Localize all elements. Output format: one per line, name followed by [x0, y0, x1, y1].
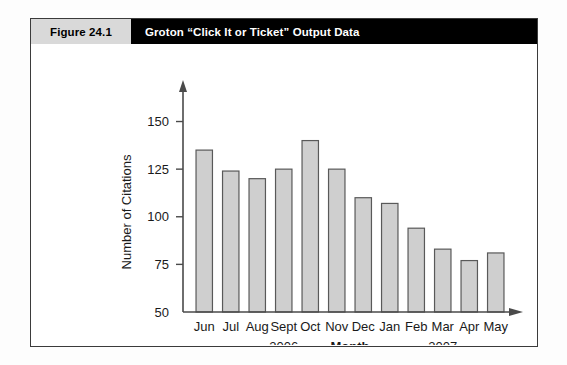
figure-container: Figure 24.1 Groton “Click It or Ticket” …	[0, 0, 567, 365]
year-label-2007: 2007	[428, 339, 457, 345]
figure-header: Figure 24.1 Groton “Click It or Ticket” …	[31, 19, 537, 44]
x-tick-label-apr: Apr	[459, 319, 480, 334]
x-axis-arrowhead	[509, 308, 523, 316]
bar-sept	[276, 169, 292, 312]
y-tick-label-125: 125	[147, 162, 169, 177]
y-tick-label-50: 50	[155, 305, 169, 320]
bar-jan	[382, 203, 398, 312]
x-tick-label-oct: Oct	[300, 319, 321, 334]
bar-jun	[196, 150, 212, 312]
y-axis-arrowhead	[179, 80, 187, 92]
x-tick-label-jun: Jun	[194, 319, 215, 334]
y-tick-label-75: 75	[155, 257, 169, 272]
y-axis-ticks: 5075100125150	[147, 114, 183, 319]
figure-title-label: Groton “Click It or Ticket” Output Data	[145, 26, 360, 38]
bar-aug	[249, 179, 265, 312]
figure-number-box: Figure 24.1	[31, 19, 131, 44]
x-tick-label-mar: Mar	[432, 319, 455, 334]
year-label-2006: 2006	[269, 339, 298, 345]
x-tick-label-jan: Jan	[379, 319, 400, 334]
x-tick-label-aug: Aug	[246, 319, 269, 334]
figure-number-label: Figure 24.1	[50, 26, 112, 38]
bar-apr	[461, 261, 477, 312]
bars-group	[196, 141, 504, 312]
y-tick-label-150: 150	[147, 114, 169, 129]
bar-nov	[329, 169, 345, 312]
y-tick-label-100: 100	[147, 209, 169, 224]
x-tick-label-sept: Sept	[270, 319, 297, 334]
x-tick-label-may: May	[483, 319, 508, 334]
x-tick-label-jul: Jul	[222, 319, 239, 334]
bar-jul	[223, 171, 239, 312]
bar-feb	[408, 228, 424, 312]
figure-frame: Figure 24.1 Groton “Click It or Ticket” …	[30, 18, 538, 347]
bar-dec	[355, 198, 371, 312]
y-axis-title: Number of Citations	[119, 154, 134, 269]
bar-oct	[302, 141, 318, 312]
x-tick-label-feb: Feb	[405, 319, 427, 334]
x-axis-ticks: JunJulAugSeptOctNovDecJanFebMarAprMay	[194, 319, 509, 334]
bar-mar	[435, 249, 451, 312]
x-tick-label-dec: Dec	[352, 319, 376, 334]
chart-svg: 5075100125150 JunJulAugSeptOctNovDecJanF…	[31, 44, 536, 345]
bar-may	[488, 253, 504, 312]
bar-chart-plot: 5075100125150 JunJulAugSeptOctNovDecJanF…	[31, 44, 537, 345]
x-axis-title: Month	[331, 339, 370, 345]
x-tick-label-nov: Nov	[325, 319, 349, 334]
figure-title-box: Groton “Click It or Ticket” Output Data	[131, 19, 537, 44]
